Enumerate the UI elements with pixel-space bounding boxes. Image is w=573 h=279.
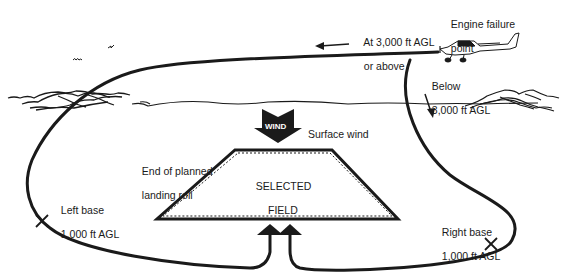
approach-arrows <box>257 224 302 235</box>
below-line2: 3,000 ft AGL <box>432 104 490 116</box>
engine-failure-label: Engine failure point <box>445 6 515 54</box>
above-3000-arrow <box>315 42 349 50</box>
above-3000-label: At 3,000 ft AGL or above <box>358 24 434 72</box>
below-3000-label: Below 3,000 ft AGL <box>426 68 490 116</box>
below-line1: Below <box>432 80 461 92</box>
left-base-line1: Left base <box>61 204 104 216</box>
above-line1: At 3,000 ft AGL <box>363 36 434 48</box>
approach-arrow-right <box>278 224 302 235</box>
right-base-label: Right base 1,000 ft AGL <box>436 214 500 262</box>
surface-wind-label: Surface wind <box>308 128 369 140</box>
end-roll-line2: landing roll <box>142 189 193 201</box>
field-line1: SELECTED <box>256 180 311 192</box>
engine-failure-line2: point <box>451 42 474 54</box>
left-base-label: Left base 1,000 ft AGL <box>55 192 119 240</box>
field-line2: FIELD <box>268 204 298 216</box>
end-of-landing-roll-label: End of planned landing roll <box>136 153 213 201</box>
approach-arrow-left <box>257 224 283 235</box>
left-base-marker <box>36 215 48 227</box>
above-line2: or above <box>364 60 405 72</box>
right-base-line1: Right base <box>442 226 492 238</box>
wind-arrow-text: WIND <box>265 121 286 133</box>
end-roll-line1: End of planned <box>142 165 213 177</box>
engine-failure-line1: Engine failure <box>451 18 515 30</box>
selected-field-label: SELECTED FIELD <box>250 168 310 216</box>
bird-icon <box>73 59 82 61</box>
bird-icon <box>108 45 114 48</box>
right-base-line2: 1,000 ft AGL <box>442 250 500 262</box>
left-base-line2: 1,000 ft AGL <box>61 228 119 240</box>
birds <box>73 45 114 60</box>
